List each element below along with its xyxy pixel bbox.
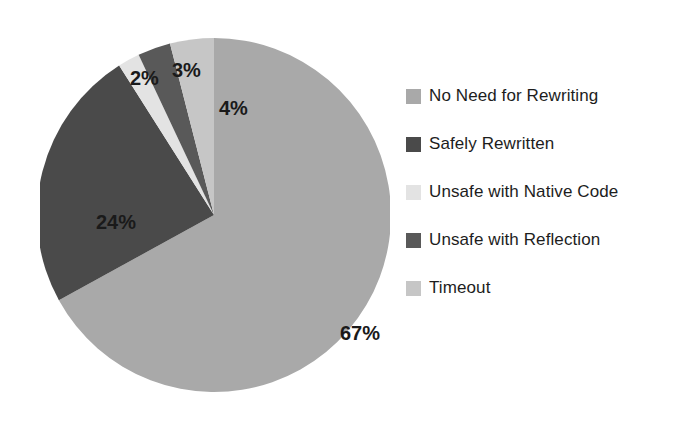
slice-data-label-no-need-for-rewriting: 67% [340,323,380,343]
legend-item-label: Unsafe with Native Code [429,182,618,202]
slice-data-label-unsafe-with-native-code: 2% [130,68,159,88]
legend-swatch-icon [406,233,421,248]
slice-data-label-timeout: 4% [219,98,248,118]
legend-item-label: Timeout [429,278,490,298]
legend-item-label: No Need for Rewriting [429,86,598,106]
legend-item[interactable]: Unsafe with Native Code [406,168,678,216]
legend-swatch-icon [406,137,421,152]
pie-slices-group [40,38,390,392]
legend-item[interactable]: Unsafe with Reflection [406,216,678,264]
legend-swatch-icon [406,281,421,296]
legend-item[interactable]: No Need for Rewriting [406,72,678,120]
pie-svg [40,30,390,400]
slice-data-label-safely-rewritten: 24% [96,212,136,232]
pie-plot-area: 67% 24% 2% 3% 4% [40,30,390,400]
legend-item[interactable]: Timeout [406,264,678,312]
legend-swatch-icon [406,185,421,200]
pie-chart: 67% 24% 2% 3% 4% No Need for RewritingSa… [0,0,690,425]
chart-legend: No Need for RewritingSafely RewrittenUns… [406,72,678,312]
legend-swatch-icon [406,89,421,104]
slice-data-label-unsafe-with-reflection: 3% [172,60,201,80]
legend-item-label: Safely Rewritten [429,134,554,154]
legend-item[interactable]: Safely Rewritten [406,120,678,168]
legend-item-label: Unsafe with Reflection [429,230,600,250]
